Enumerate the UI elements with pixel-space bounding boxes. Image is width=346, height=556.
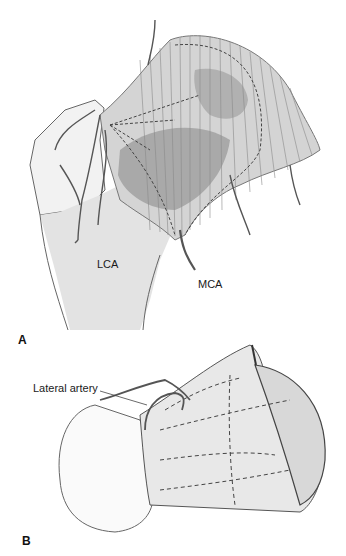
label-lateral-artery: Lateral artery (33, 382, 98, 394)
label-mca: MCA (198, 278, 222, 290)
anatomical-figure: LCA MCA A Lateral artery B (0, 0, 346, 556)
panel-b-capsule-illustration (0, 0, 346, 556)
label-lca: LCA (97, 258, 118, 270)
panel-letter-a: A (18, 334, 27, 346)
panel-letter-b: B (22, 535, 31, 547)
